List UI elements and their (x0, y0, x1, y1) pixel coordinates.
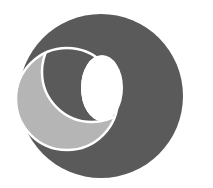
logo-emblem (0, 0, 213, 188)
emblem-graphic-icon (0, 0, 213, 188)
